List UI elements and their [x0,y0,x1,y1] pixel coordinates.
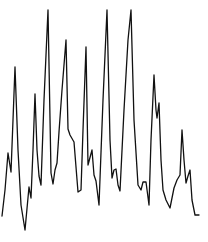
line-chart [0,0,208,242]
chart-plot-area [0,0,208,242]
signal-line [2,10,199,230]
